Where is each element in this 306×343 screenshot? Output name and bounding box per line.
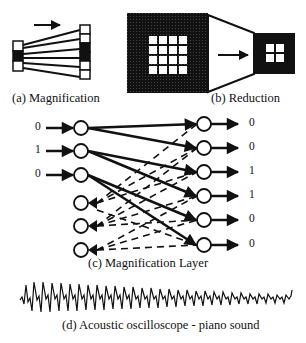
output-label: 0 (249, 237, 255, 249)
output-node (197, 238, 211, 252)
diagram-canvas (0, 0, 306, 343)
output-node (197, 213, 211, 227)
hidden-node (74, 196, 88, 210)
input-label: 0 (35, 120, 41, 132)
output-label: 1 (249, 164, 255, 176)
magnification-layer-panel (46, 117, 238, 257)
input-node (74, 121, 88, 135)
input-label: 0 (35, 167, 41, 179)
hidden-node (74, 243, 88, 257)
caption-magnification-layer: (c) Magnification Layer (88, 256, 208, 271)
output-node (197, 189, 211, 203)
caption-reduction: (b) Reduction (211, 91, 280, 106)
input-node (74, 144, 88, 158)
output-label: 0 (249, 116, 255, 128)
input-node (74, 168, 88, 182)
oscilloscope-waveform (20, 282, 292, 312)
output-node (197, 117, 211, 131)
output-label: 0 (249, 140, 255, 152)
output-label: 1 (249, 188, 255, 200)
output-node (197, 165, 211, 179)
magnification-panel (13, 25, 90, 79)
reduction-panel (127, 13, 295, 93)
output-node (197, 141, 211, 155)
output-label: 0 (249, 212, 255, 224)
input-label: 1 (35, 143, 41, 155)
caption-magnification: (a) Magnification (12, 91, 100, 106)
caption-oscilloscope: (d) Acoustic oscilloscope - piano sound (62, 318, 260, 333)
hidden-node (74, 219, 88, 233)
